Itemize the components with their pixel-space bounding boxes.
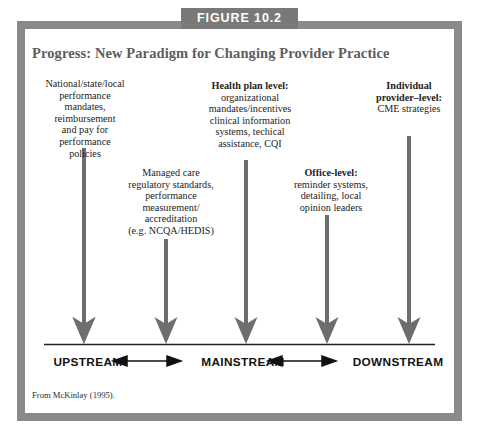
figure-number-tab: FIGURE 10.2 [181,8,298,29]
scale-label-upstream: UPSTREAM [38,355,138,369]
column-individual-provider-level: Individualprovider–level: CME strategies [355,80,463,115]
arrow-health-plan-level [235,160,258,344]
column-1-text: National/state/localperformancemandates,… [26,78,144,159]
source-note: From McKinlay (1995). [32,390,115,400]
column-office-level: Office-level: reminder systems,detailing… [273,167,389,213]
column-3-text: organizationalmandates/incentivesclinica… [186,92,314,150]
column-managed-care: Managed careregulatory standards,perform… [108,167,234,237]
scale-label-downstream: DOWNSTREAM [340,355,456,369]
scale-label-mainstream: MAINSTREAM [188,355,298,369]
column-3-heading: Health plan level: [186,80,314,92]
arrow-office-level [316,215,339,344]
column-2-text: Managed careregulatory standards,perform… [108,167,234,237]
arrow-national-state-local [73,148,96,344]
column-5-heading: Individualprovider–level: [355,80,463,103]
figure-container: FIGURE 10.2 Progress: New Paradigm for C… [0,0,479,442]
column-4-heading: Office-level: [273,167,389,179]
column-national-state-local: National/state/localperformancemandates,… [26,78,144,159]
column-4-text: reminder systems,detailing, localopinion… [273,179,389,214]
column-5-text: CME strategies [355,103,463,115]
arrow-individual-provider-level [398,136,421,344]
column-health-plan-level: Health plan level: organizationalmandate… [186,80,314,150]
arrow-managed-care [155,239,178,344]
